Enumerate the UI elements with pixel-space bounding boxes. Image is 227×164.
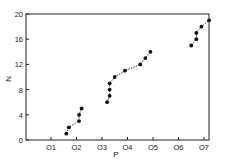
- data-point: [108, 94, 112, 98]
- series-group-2: [105, 50, 152, 104]
- data-point: [149, 50, 153, 54]
- data-point: [207, 18, 211, 22]
- data-point: [64, 132, 68, 136]
- y-tick-label: 20: [15, 10, 23, 19]
- data-point: [113, 75, 117, 79]
- x-tick-label: O1: [46, 143, 56, 152]
- connector-line: [191, 20, 209, 45]
- data-point: [108, 88, 112, 92]
- data-point: [105, 100, 109, 104]
- y-tick-label: 4: [19, 111, 23, 120]
- x-axis-ticks: O1O2O3O4O5O6O7: [46, 137, 209, 152]
- data-point: [80, 107, 84, 111]
- data-point: [194, 31, 198, 35]
- data-series: [64, 18, 211, 135]
- y-axis-ticks: 048121620: [15, 10, 29, 145]
- data-point: [67, 126, 71, 130]
- data-point: [123, 69, 127, 73]
- y-tick-label: 16: [15, 35, 23, 44]
- x-tick-label: O7: [199, 143, 209, 152]
- plot-frame: [26, 14, 209, 140]
- x-tick-label: O5: [148, 143, 158, 152]
- y-axis-label: N: [4, 76, 13, 82]
- y-tick-label: 0: [19, 136, 23, 145]
- x-tick-label: O4: [122, 143, 132, 152]
- data-point: [77, 119, 81, 123]
- scatter-chart: 048121620 O1O2O3O4O5O6O7 P N: [0, 0, 227, 164]
- x-tick-label: O6: [173, 143, 183, 152]
- x-tick-label: O2: [71, 143, 81, 152]
- data-point: [138, 63, 142, 67]
- data-point: [77, 113, 81, 117]
- x-axis-label: P: [113, 150, 118, 159]
- data-point: [200, 25, 204, 29]
- data-point: [143, 56, 147, 60]
- data-point: [108, 81, 112, 85]
- series-group-3: [189, 18, 211, 47]
- data-point: [189, 44, 193, 48]
- x-tick-label: O3: [97, 143, 107, 152]
- series-group-1: [64, 107, 83, 136]
- y-tick-label: 8: [19, 86, 23, 95]
- y-tick-label: 12: [15, 60, 23, 69]
- data-point: [194, 37, 198, 41]
